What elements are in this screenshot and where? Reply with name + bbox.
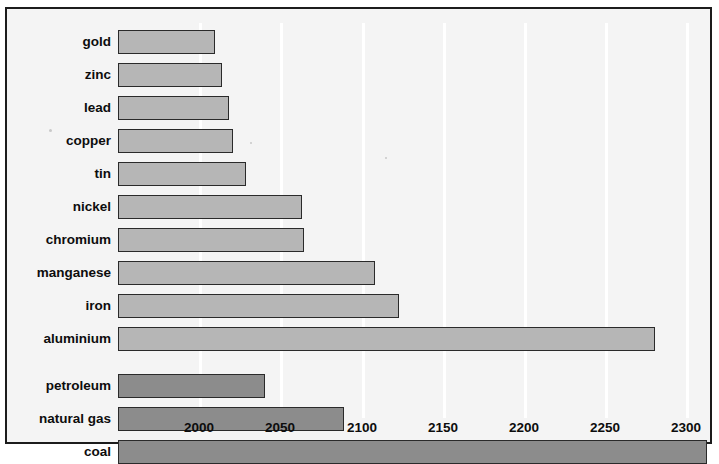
bar-zinc: [118, 63, 222, 87]
scan-speck: [49, 129, 52, 132]
category-label-tin: tin: [95, 162, 112, 186]
category-label-natural-gas: natural gas: [39, 407, 111, 431]
x-tick-label-2200: 2200: [509, 420, 539, 435]
category-label-nickel: nickel: [73, 195, 111, 219]
x-tick-label-2250: 2250: [590, 420, 620, 435]
bar-copper: [118, 129, 233, 153]
bar-iron: [118, 294, 399, 318]
bar-row: [118, 30, 707, 54]
bar-row: [118, 374, 707, 398]
x-tick-label-2100: 2100: [347, 420, 377, 435]
bar-tin: [118, 162, 246, 186]
scan-speck: [385, 157, 387, 159]
x-tick-label-2000: 2000: [184, 420, 214, 435]
x-tick-label-2050: 2050: [265, 420, 295, 435]
category-label-lead: lead: [84, 96, 111, 120]
category-label-copper: copper: [66, 129, 111, 153]
chart-frame: goldzincleadcoppertinnickelchromiummanga…: [5, 7, 712, 444]
category-label-chromium: chromium: [46, 228, 111, 252]
bar-manganese: [118, 261, 375, 285]
bar-row: [118, 63, 707, 87]
category-label-gold: gold: [83, 30, 112, 54]
bar-chromium: [118, 228, 304, 252]
bar-row: [118, 129, 707, 153]
x-tick-label-2150: 2150: [428, 420, 458, 435]
x-axis: 2000205021002150220022502300: [118, 418, 707, 444]
bar-row: [118, 162, 707, 186]
bar-row: [118, 228, 707, 252]
scan-speck: [250, 142, 252, 144]
category-label-petroleum: petroleum: [46, 374, 111, 398]
category-label-iron: iron: [86, 294, 112, 318]
bar-nickel: [118, 195, 302, 219]
category-label-zinc: zinc: [85, 63, 111, 87]
bar-aluminium: [118, 327, 655, 351]
bar-row: [118, 96, 707, 120]
plot-area: [118, 23, 707, 418]
bar-gold: [118, 30, 215, 54]
x-tick-label-2300: 2300: [671, 420, 701, 435]
bar-row: [118, 294, 707, 318]
category-label-column: goldzincleadcoppertinnickelchromiummanga…: [7, 23, 111, 418]
bar-row: [118, 195, 707, 219]
bar-row: [118, 327, 707, 351]
category-label-coal: coal: [84, 440, 111, 464]
bar-row: [118, 261, 707, 285]
bar-lead: [118, 96, 229, 120]
bar-petroleum: [118, 374, 265, 398]
category-label-aluminium: aluminium: [43, 327, 111, 351]
category-label-manganese: manganese: [37, 261, 111, 285]
